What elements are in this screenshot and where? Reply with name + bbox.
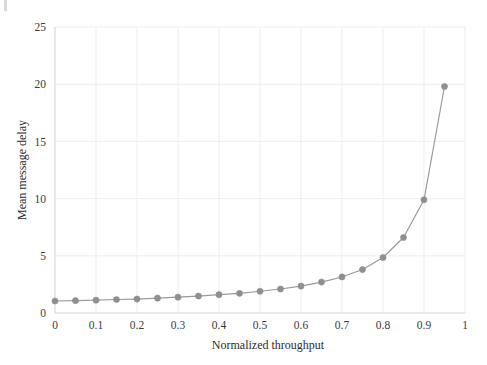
x-tick-label: 0: [52, 319, 58, 331]
y-tick-label: 0: [40, 307, 46, 319]
data-point-marker: [175, 294, 181, 300]
corner-tick-icon: [4, 0, 7, 11]
data-series: [52, 83, 448, 304]
data-point-marker: [154, 295, 160, 301]
data-point-marker: [216, 292, 222, 298]
series-line: [55, 86, 445, 301]
data-point-marker: [318, 279, 324, 285]
data-point-marker: [298, 283, 304, 289]
x-tick-label: 0.9: [417, 319, 432, 331]
data-point-marker: [400, 234, 406, 240]
x-tick-label: 0.2: [130, 319, 145, 331]
grid-lines: [55, 27, 465, 313]
data-point-marker: [113, 296, 119, 302]
data-point-marker: [236, 290, 242, 296]
data-point-marker: [441, 83, 447, 89]
data-point-marker: [359, 266, 365, 272]
data-point-marker: [93, 297, 99, 303]
y-tick-label: 10: [35, 193, 47, 205]
y-tick-label: 20: [35, 78, 47, 90]
data-point-marker: [195, 293, 201, 299]
line-chart: 00.10.20.30.40.50.60.70.80.91 0510152025…: [0, 0, 487, 365]
x-tick-label: 0.3: [171, 319, 186, 331]
data-point-marker: [421, 197, 427, 203]
x-tick-label: 0.6: [294, 319, 309, 331]
x-tick-label: 0.8: [376, 319, 391, 331]
x-axis-title: Normalized throughput: [212, 338, 325, 352]
chart-figure: 00.10.20.30.40.50.60.70.80.91 0510152025…: [0, 0, 487, 365]
x-tick-label: 1: [462, 319, 468, 331]
x-axis-tick-labels: 00.10.20.30.40.50.60.70.80.91: [52, 319, 468, 331]
y-tick-label: 25: [35, 21, 47, 33]
x-tick-label: 0.4: [212, 319, 227, 331]
data-point-marker: [339, 274, 345, 280]
y-tick-label: 15: [35, 136, 47, 148]
data-point-marker: [380, 254, 386, 260]
data-point-marker: [134, 296, 140, 302]
y-tick-label: 5: [40, 250, 46, 262]
x-tick-label: 0.7: [335, 319, 350, 331]
y-axis-title: Mean message delay: [15, 120, 29, 220]
data-point-marker: [277, 286, 283, 292]
x-tick-label: 0.1: [89, 319, 104, 331]
data-point-marker: [72, 298, 78, 304]
x-tick-label: 0.5: [253, 319, 268, 331]
data-point-marker: [257, 288, 263, 294]
y-axis-tick-labels: 0510152025: [35, 21, 47, 319]
data-point-marker: [52, 298, 58, 304]
